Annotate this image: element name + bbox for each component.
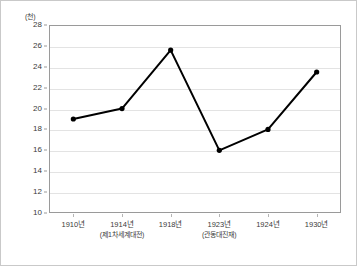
- x-tick-label: 1930년: [305, 220, 329, 230]
- y-tick-label: 14: [33, 167, 42, 175]
- x-tick-mark: [219, 214, 220, 217]
- x-tick-note: (관동대진재): [202, 230, 237, 239]
- y-tick-mark: [44, 66, 47, 67]
- data-point-marker: [314, 69, 319, 74]
- series-line: [73, 50, 316, 150]
- data-point-marker: [119, 106, 124, 111]
- x-tick-mark: [122, 214, 123, 217]
- y-tick-label: 18: [33, 125, 42, 133]
- x-tick-note: (제1차세계대전): [100, 230, 145, 239]
- data-point-marker: [265, 127, 270, 132]
- y-axis-unit-label: (천): [25, 13, 36, 20]
- x-tick-label: 1918년: [159, 220, 183, 230]
- y-tick-mark: [44, 213, 47, 214]
- y-tick-mark: [44, 45, 47, 46]
- y-tick-label: 16: [33, 146, 42, 154]
- x-axis: 1910년1914년(제1차세계대전)1918년1923년(관동대진재)1924…: [49, 214, 341, 264]
- data-point-marker: [168, 47, 173, 52]
- x-tick-label: 1910년: [61, 220, 85, 230]
- data-point-marker: [217, 148, 222, 153]
- y-tick-mark: [44, 25, 47, 26]
- y-tick-mark: [44, 108, 47, 109]
- y-tick-mark: [44, 87, 47, 88]
- line-series: [49, 25, 341, 213]
- data-point-marker: [71, 116, 76, 121]
- x-tick-mark: [171, 214, 172, 217]
- y-tick-label: 26: [33, 42, 42, 50]
- y-tick-mark: [44, 129, 47, 130]
- x-tick-label: 1924년: [256, 220, 280, 230]
- y-tick-label: 10: [33, 209, 42, 217]
- y-tick-label: 22: [33, 84, 42, 92]
- y-tick-mark: [44, 150, 47, 151]
- y-tick-label: 20: [33, 105, 42, 113]
- y-tick-label: 28: [33, 21, 42, 29]
- x-tick-mark: [268, 214, 269, 217]
- chart-figure: (천) 10121416182022242628 1910년1914년(제1차세…: [0, 0, 357, 266]
- y-axis: 10121416182022242628: [1, 25, 47, 213]
- x-tick-mark: [317, 214, 318, 217]
- y-tick-mark: [44, 192, 47, 193]
- y-tick-label: 24: [33, 63, 42, 71]
- y-tick-label: 12: [33, 188, 42, 196]
- x-tick-label: 1923년(관동대진재): [202, 220, 237, 240]
- y-tick-mark: [44, 171, 47, 172]
- x-tick-label: 1914년(제1차세계대전): [100, 220, 145, 240]
- x-tick-mark: [73, 214, 74, 217]
